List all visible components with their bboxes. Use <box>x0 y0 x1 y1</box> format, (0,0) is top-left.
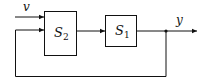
input-label-v: v <box>23 0 30 14</box>
block-s2-label: S2 <box>54 25 69 42</box>
block-s1-label: S1 <box>115 23 130 40</box>
output-label-y: y <box>175 13 183 27</box>
feedback-path <box>16 30 167 77</box>
block-diagram: v S2 S1 y <box>0 0 207 79</box>
